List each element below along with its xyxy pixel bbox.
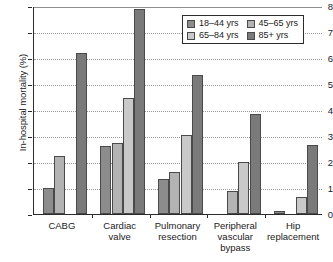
legend-label: 65–84 yrs (199, 31, 239, 40)
bar-chart: In-hospital mortality (%) 012345678 CABG… (0, 0, 333, 262)
x-tick-mark (150, 214, 151, 218)
y-axis-title: In-hospital mortality (%) (17, 18, 28, 188)
bar (54, 156, 65, 215)
bar (192, 75, 203, 214)
legend-entry: 85+ yrs (247, 31, 299, 40)
y-tick-mark (28, 111, 32, 112)
bar (238, 162, 249, 214)
legend-swatch-icon (187, 32, 195, 40)
bar (43, 188, 54, 214)
gridline (34, 7, 322, 8)
bar (169, 172, 180, 214)
bar (296, 197, 307, 214)
bar (307, 145, 318, 214)
bar (123, 98, 134, 214)
x-tick-mark (92, 214, 93, 218)
bar (227, 191, 238, 214)
y-tick-mark (28, 215, 32, 216)
bar (250, 114, 261, 214)
legend-label: 45–65 yrs (259, 19, 299, 28)
x-tick-mark (207, 214, 208, 218)
legend-swatch-icon (247, 20, 255, 28)
x-category-label-line: bypass (200, 242, 270, 253)
y-tick-mark (28, 189, 32, 190)
bar (181, 135, 192, 214)
x-tick-mark (265, 214, 266, 218)
bar (112, 143, 123, 215)
y-tick-mark (28, 33, 32, 34)
y-tick-mark (28, 85, 32, 86)
y-tick-mark (28, 163, 32, 164)
legend-entries: 18–44 yrs45–65 yrs65–84 yrs85+ yrs (187, 19, 298, 40)
bar (134, 9, 145, 214)
bar (158, 179, 169, 214)
legend-entry: 45–65 yrs (247, 19, 299, 28)
x-category-label-line: Hip (258, 220, 328, 231)
legend-swatch-icon (247, 32, 255, 40)
chart-legend: 18–44 yrs45–65 yrs65–84 yrs85+ yrs (182, 15, 304, 44)
legend-entry: 65–84 yrs (187, 31, 239, 40)
legend-swatch-icon (187, 20, 195, 28)
bar (274, 211, 285, 214)
bar (100, 146, 111, 214)
bar (76, 53, 87, 214)
y-tick-mark (28, 137, 32, 138)
x-category-label: Hipreplacement (258, 220, 328, 242)
x-category-label-line: replacement (258, 231, 328, 242)
y-tick-mark (28, 59, 32, 60)
legend-label: 85+ yrs (259, 31, 289, 40)
legend-entry: 18–44 yrs (187, 19, 239, 28)
y-tick-mark (28, 7, 32, 8)
legend-label: 18–44 yrs (199, 19, 239, 28)
